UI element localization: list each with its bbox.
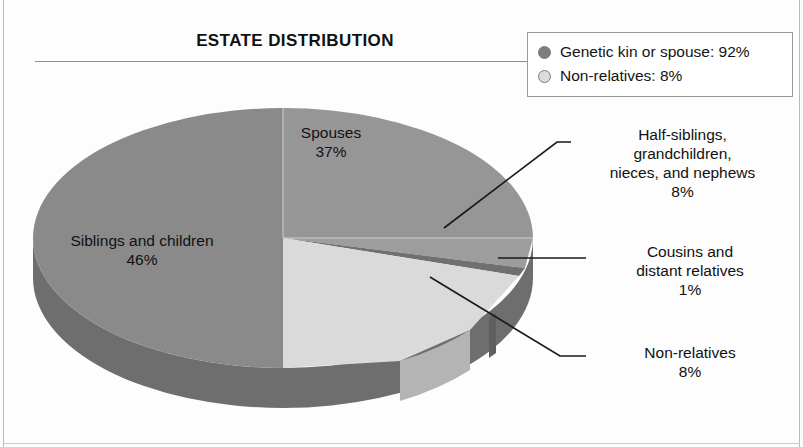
callout-half-value: 8% [575,183,790,202]
legend-label-genetic-kin: Genetic kin or spouse: 92% [560,43,750,61]
callout-half-line1: Half-siblings, [575,126,790,145]
callout-cousins-line1: Cousins and [590,243,790,262]
callout-half-siblings: Half-siblings, grandchildren, nieces, an… [575,126,790,202]
pie-label-spouses-name: Spouses [256,124,406,143]
pie-label-siblings-value: 46% [12,251,272,270]
chart-figure: ESTATE DISTRIBUTION [0,0,803,447]
pie-label-spouses: Spouses 37% [256,124,406,161]
legend-item-non-relatives: Non-relatives: 8% [538,64,782,88]
callout-nonrel-value: 8% [590,363,790,382]
callout-non-relatives: Non-relatives 8% [590,344,790,382]
callout-half-line3: nieces, and nephews [575,164,790,183]
pie-label-spouses-value: 37% [256,143,406,162]
legend-swatch-light-icon [538,70,551,83]
pie-rim-edge-separator [489,313,496,358]
callout-cousins: Cousins and distant relatives 1% [590,243,790,300]
pie-label-siblings-name: Siblings and children [12,232,272,251]
callout-cousins-line2: distant relatives [590,262,790,281]
chart-legend: Genetic kin or spouse: 92% Non-relatives… [527,32,793,97]
callout-nonrel-line1: Non-relatives [590,344,790,363]
legend-label-non-relatives: Non-relatives: 8% [560,67,682,85]
legend-item-genetic-kin: Genetic kin or spouse: 92% [538,40,782,64]
callout-half-line2: grandchildren, [575,145,790,164]
callout-cousins-value: 1% [590,281,790,300]
legend-swatch-dark-icon [538,46,551,59]
pie-label-siblings-and-children: Siblings and children 46% [12,232,272,269]
